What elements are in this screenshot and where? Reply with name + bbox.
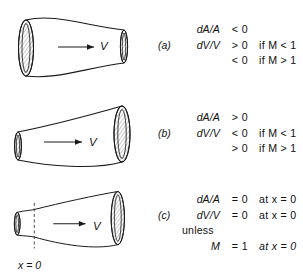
equation-relation: < 0 bbox=[220, 126, 250, 142]
equation-condition: if M > 1 bbox=[250, 141, 303, 157]
equation-row-final: M = 1 at x = 0 bbox=[158, 239, 303, 255]
equation-relation: < 0 bbox=[220, 22, 250, 38]
panel-tag-c: (c) bbox=[158, 208, 182, 224]
equation-row: dA/A = 0 at x = 0 bbox=[158, 192, 303, 208]
equation-condition: if M > 1 bbox=[250, 53, 303, 69]
panel-tag-b: (b) bbox=[158, 126, 182, 142]
unless-label: unless bbox=[182, 223, 214, 239]
throat-position-label: x = 0 bbox=[18, 259, 41, 271]
equation-block-b: dA/A > 0 (b) dV/V < 0 if M < 1 > 0 if M … bbox=[158, 110, 303, 157]
duct-diagram-converging bbox=[2, 0, 152, 93]
equation-row: (c) dV/V = 0 at x = 0 bbox=[158, 208, 303, 224]
panel-a: V dA/A < 0 (a) dV/V > 0 if M < 1 < 0 if … bbox=[0, 0, 303, 93]
equation-relation: = 0 bbox=[220, 192, 250, 208]
flow-velocity-label-b: V bbox=[89, 136, 97, 148]
equation-block-c: dA/A = 0 at x = 0 (c) dV/V = 0 at x = 0 … bbox=[158, 192, 303, 254]
equation-relation: = 0 bbox=[220, 208, 250, 224]
flow-velocity-label-c: V bbox=[93, 220, 101, 232]
panel-c: V x = 0 dA/A = 0 at x = 0 (c) dV/V = 0 a… bbox=[0, 182, 303, 280]
equation-row: (b) dV/V < 0 if M < 1 bbox=[158, 126, 303, 142]
equation-condition: at x = 0 bbox=[250, 208, 303, 224]
equation-lhs: dA/A bbox=[182, 192, 220, 208]
flow-velocity-label-a: V bbox=[100, 40, 108, 52]
panel-tag-a: (a) bbox=[158, 38, 182, 54]
equation-relation: > 0 bbox=[220, 110, 250, 126]
unless-row: unless bbox=[158, 223, 303, 239]
equation-condition: if M < 1 bbox=[250, 38, 303, 54]
equation-block-a: dA/A < 0 (a) dV/V > 0 if M < 1 < 0 if M … bbox=[158, 22, 303, 69]
equation-relation: < 0 bbox=[220, 53, 250, 69]
equation-relation: = 1 bbox=[220, 239, 250, 255]
equation-lhs: dA/A bbox=[182, 22, 220, 38]
equation-relation: > 0 bbox=[220, 141, 250, 157]
equation-lhs: dA/A bbox=[182, 110, 220, 126]
equation-row: (a) dV/V > 0 if M < 1 bbox=[158, 38, 303, 54]
equation-lhs: M bbox=[182, 239, 220, 255]
equation-relation: > 0 bbox=[220, 38, 250, 54]
equation-lhs: dV/V bbox=[182, 208, 220, 224]
equation-lhs: dV/V bbox=[182, 38, 220, 54]
equation-row: < 0 if M > 1 bbox=[158, 53, 303, 69]
equation-lhs: dV/V bbox=[182, 126, 220, 142]
equation-condition: at x = 0 bbox=[250, 192, 303, 208]
equation-condition: at x = 0 bbox=[250, 239, 303, 255]
panel-b: V dA/A > 0 (b) dV/V < 0 if M < 1 > 0 if … bbox=[0, 92, 303, 185]
nozzle-area-velocity-figure: V dA/A < 0 (a) dV/V > 0 if M < 1 < 0 if … bbox=[0, 0, 303, 280]
equation-row: dA/A > 0 bbox=[158, 110, 303, 126]
equation-row: > 0 if M > 1 bbox=[158, 141, 303, 157]
equation-row: dA/A < 0 bbox=[158, 22, 303, 38]
equation-condition: if M < 1 bbox=[250, 126, 303, 142]
duct-diagram-diverging bbox=[2, 92, 152, 185]
